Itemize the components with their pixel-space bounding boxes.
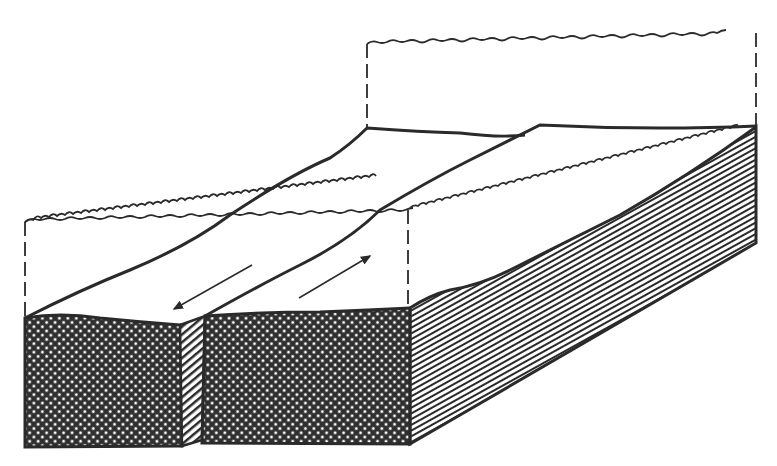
front-face-left-block xyxy=(25,315,185,447)
motion-arrow-left-block xyxy=(174,265,252,309)
front-face-right-block xyxy=(202,308,410,444)
strike-slip-fault-diagram xyxy=(0,0,777,466)
motion-arrow-right-block xyxy=(299,256,370,298)
side-face xyxy=(410,127,756,444)
